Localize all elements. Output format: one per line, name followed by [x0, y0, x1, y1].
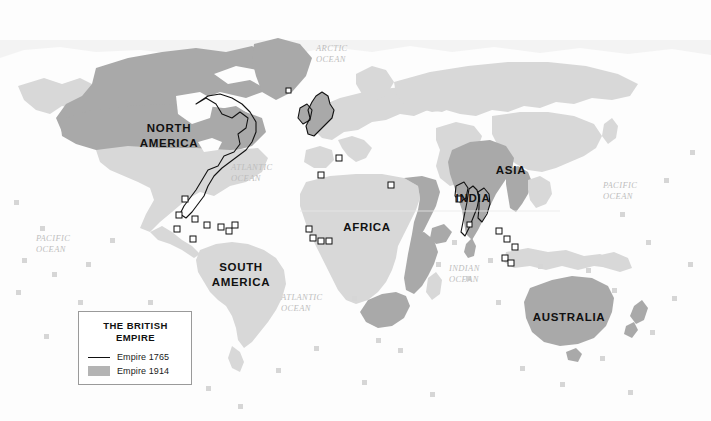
legend-line-swatch-icon: [88, 353, 110, 362]
legend-title-line2: EMPIRE: [88, 332, 183, 344]
legend-fill-swatch-icon: [88, 366, 110, 376]
legend-title: THE BRITISH EMPIRE: [88, 320, 183, 344]
legend-item-empire-1765: Empire 1765: [88, 352, 183, 362]
world-map: .land { fill: #d8d8d8; stroke: none; } .…: [0, 0, 711, 421]
legend-item-empire-1765-label: Empire 1765: [117, 352, 169, 362]
legend-title-line1: THE BRITISH: [88, 320, 183, 332]
map-legend: THE BRITISH EMPIRE Empire 1765 Empire 19…: [78, 311, 192, 385]
legend-item-empire-1914: Empire 1914: [88, 366, 183, 376]
legend-item-empire-1914-label: Empire 1914: [117, 366, 169, 376]
